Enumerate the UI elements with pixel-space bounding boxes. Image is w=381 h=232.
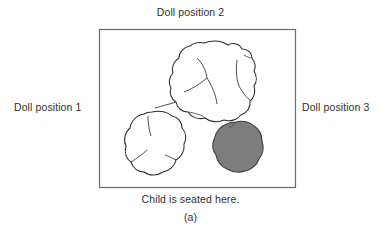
gray-mound (213, 121, 263, 172)
gray-mound-outline (213, 121, 263, 172)
large-mound-outline (169, 41, 256, 121)
figure-container: Doll position 2 Doll position 1 Doll pos… (0, 0, 381, 232)
scene-drawing (0, 0, 381, 232)
